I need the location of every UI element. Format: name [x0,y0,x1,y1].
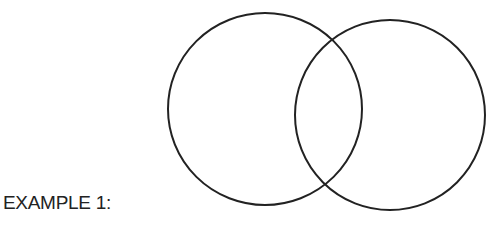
left-circle [168,13,362,205]
venn-diagram [0,0,502,226]
right-circle [295,20,485,210]
